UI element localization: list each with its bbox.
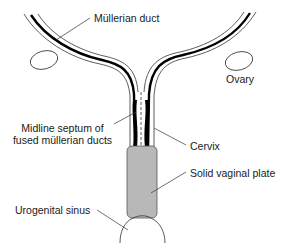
- urogenital-sinus: [120, 218, 165, 243]
- solid-vaginal-plate: [127, 146, 157, 218]
- mullerian-fusion-diagram: Müllerian duct Ovary Midline septum of f…: [0, 0, 282, 245]
- label-midline-septum-line1: Midline septum of: [10, 122, 115, 134]
- label-mullerian-duct: Müllerian duct: [94, 12, 159, 24]
- label-cervix: Cervix: [190, 140, 220, 152]
- leader-mullerian-duct: [56, 18, 90, 40]
- leader-urogenital-sinus: [97, 210, 128, 230]
- label-midline-septum-line2: fused müllerian ducts: [10, 134, 115, 146]
- right-ovary: [223, 49, 255, 74]
- left-ovary: [28, 48, 60, 73]
- label-midline-septum: Midline septum of fused müllerian ducts: [10, 122, 115, 146]
- label-ovary: Ovary: [226, 73, 254, 85]
- label-solid-vaginal-plate: Solid vaginal plate: [190, 167, 275, 179]
- left-lumen-thick: [133, 100, 138, 148]
- leader-cervix: [154, 128, 186, 145]
- label-urogenital-sinus: Urogenital sinus: [15, 204, 90, 216]
- leader-midline-septum: [114, 112, 136, 124]
